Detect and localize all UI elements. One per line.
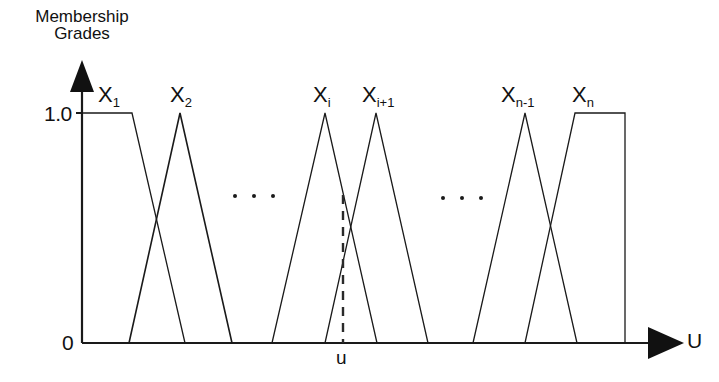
set-label-xn: Xn [572, 84, 594, 106]
set-label-x2-sub: 2 [185, 95, 192, 110]
set-label-xi-sub: i [328, 95, 331, 110]
ellipsis-dot [233, 194, 237, 198]
ellipsis-dot [479, 196, 483, 200]
set-label-x1: X1 [98, 84, 120, 106]
set-label-x2: X2 [170, 84, 192, 106]
x-axis-point-label-u: u [336, 348, 347, 367]
x-axis-arrow-icon [648, 327, 684, 359]
ellipsis-dot [271, 194, 275, 198]
set-label-xi: Xi [313, 84, 331, 106]
membership-curve-xn [525, 113, 625, 343]
set-label-xn-sub: n [587, 95, 594, 110]
set-label-xn-minus-1-sub: n-1 [516, 95, 535, 110]
x-axis-label: U [687, 330, 702, 351]
y-axis-title-line-2: Grades [6, 25, 158, 42]
ellipsis-right [441, 196, 483, 200]
ellipsis-left [233, 194, 275, 198]
set-label-xn-minus-1-base: X [501, 82, 516, 107]
membership-curve-xn-minus-1 [473, 113, 577, 343]
set-label-x1-sub: 1 [113, 95, 120, 110]
y-axis-arrow-icon [70, 60, 94, 92]
ellipsis-dot [441, 196, 445, 200]
y-tick-label-bottom: 0 [62, 332, 74, 353]
plot-canvas [0, 0, 719, 382]
ellipsis-dot [252, 194, 256, 198]
y-axis-title-line-1: Membership [6, 8, 158, 25]
set-label-xi-plus-1-base: X [362, 82, 377, 107]
set-label-xi-base: X [313, 82, 328, 107]
y-tick-label-top: 1.0 [44, 103, 72, 124]
y-axis-title: Membership Grades [6, 8, 158, 42]
membership-curve-x1 [82, 113, 185, 343]
membership-function-figure: Membership Grades 1.0 0 U u X1 X2 Xi Xi+… [0, 0, 719, 382]
membership-curve-xi-plus-1 [325, 113, 428, 343]
membership-curve-x2 [129, 113, 232, 343]
set-label-xn-minus-1: Xn-1 [501, 84, 534, 106]
membership-curve-xi [272, 113, 377, 343]
set-label-xi-plus-1-sub: i+1 [377, 95, 395, 110]
set-label-xi-plus-1: Xi+1 [362, 84, 394, 106]
set-label-x1-base: X [98, 82, 113, 107]
set-label-xn-base: X [572, 82, 587, 107]
set-label-x2-base: X [170, 82, 185, 107]
ellipsis-dot [460, 196, 464, 200]
